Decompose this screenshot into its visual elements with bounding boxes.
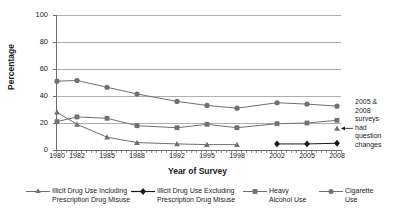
legend-label-line1: Heavy: [269, 186, 313, 195]
legend-label-line1: Illicit Drug Use Excluding: [157, 186, 241, 195]
annotation-question-changes: 2005 & 2008 surveys had question changes: [355, 98, 403, 150]
legend-label-line2: Use: [345, 195, 389, 204]
diamond-marker-icon: [131, 187, 155, 196]
legend-label-line1: Illicit Drug Use Including: [52, 186, 136, 195]
legend-item-cigarette[interactable]: Cigarette Use: [319, 186, 389, 204]
annotation-line-3: surveys: [355, 115, 403, 124]
legend-label-line1: Cigarette: [345, 186, 389, 195]
legend-item-heavy-alcohol[interactable]: Heavy Alcohol Use: [243, 186, 313, 204]
annotation-line-4: had: [355, 124, 403, 133]
annotation-line-1: 2005 &: [355, 98, 403, 107]
legend-label-line2: Prescription Drug Misuse: [157, 195, 241, 204]
chart-legend: Illicit Drug Use Including Prescription …: [0, 182, 403, 219]
square-marker-icon: [243, 187, 267, 196]
legend-label-line2: Prescription Drug Misuse: [52, 195, 136, 204]
annotation-line-5: question: [355, 132, 403, 141]
triangle-marker-icon: [26, 187, 50, 196]
legend-item-illicit-excluding[interactable]: Illicit Drug Use Excluding Prescription …: [131, 186, 241, 204]
legend-item-illicit-including[interactable]: Illicit Drug Use Including Prescription …: [26, 186, 136, 204]
line-chart: Percentage 100 80 60 40 20 0 1980 1982 1…: [0, 0, 403, 219]
annotation-line-6: changes: [355, 141, 403, 150]
circle-marker-icon: [319, 187, 343, 196]
annotation-line-2: 2008: [355, 107, 403, 116]
legend-label-line2: Alcohol Use: [269, 195, 313, 204]
